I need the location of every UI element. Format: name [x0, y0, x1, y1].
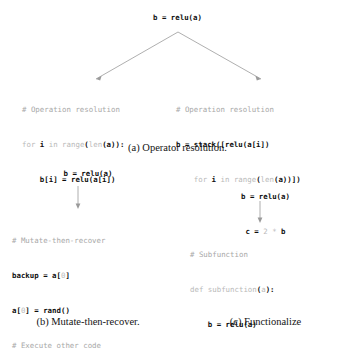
subfigure-functionalize: b = relu(a) c = 2 * b # Subfunction def … [176, 166, 355, 348]
root-line-c-1: b = relu(a) [176, 191, 355, 203]
functionalize-code: # Subfunction def subfunction(a): b = re… [190, 226, 275, 348]
branch-left-comment: # Operation resolution [22, 104, 124, 116]
root-code-text-b: b = relu(a) [64, 169, 113, 178]
arrow-left-line [96, 32, 178, 79]
arrow-left-head [96, 76, 102, 81]
mutate-recover-code: # Mutate-then-recover backup = a[0] a[0]… [12, 212, 105, 348]
root-code-text: b = relu(a) [153, 13, 202, 22]
mutate-line-2: a[0] = rand() [12, 305, 105, 317]
node-root-expression: b = relu(a) [0, 12, 355, 24]
arrow-right-head [255, 76, 261, 81]
functionalize-comment: # Subfunction [190, 249, 275, 261]
branch-right-comment: # Operation resolution [176, 104, 301, 116]
arrow-right-line [178, 32, 261, 79]
functionalize-line-1: def subfunction(a): [190, 284, 275, 296]
mutate-comment-2: # Execute other code [12, 340, 105, 348]
mutate-comment-1: # Mutate-then-recover [12, 235, 105, 247]
node-root-expression-b: b = relu(a) [0, 168, 176, 180]
caption-c: (c) Functionalize [176, 316, 355, 327]
mutate-line-1: backup = a[0] [12, 270, 105, 282]
subfigure-operator-resolution: b = relu(a) # Operation resolution for i… [0, 0, 355, 160]
caption-a: (a) Operator resolution. [0, 142, 355, 153]
arrow-down-head-b [76, 204, 81, 210]
caption-b: (b) Mutate-then-recover. [0, 316, 176, 327]
subfigure-mutate-then-recover: b = relu(a) # Mutate-then-recover backup… [0, 166, 176, 348]
